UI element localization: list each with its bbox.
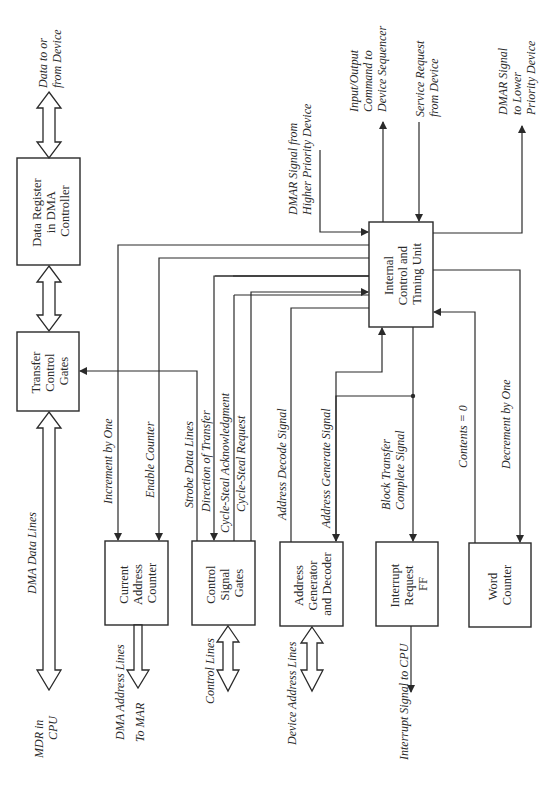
- label-contents-zero: Contents = 0: [456, 405, 470, 468]
- label-block-transfer-complete: Block Transfer Complete Signal: [379, 430, 407, 510]
- control-signal-gates-block: Control Signal Gates: [192, 541, 255, 625]
- data-register-block: Data Register in DMA Controller: [17, 158, 80, 265]
- label-enable-counter: Enable Counter: [143, 421, 157, 499]
- label-mdr-in-cpu: MDR in CPU: [32, 715, 60, 759]
- data-register-line-1: Data Register: [30, 178, 44, 247]
- label-dma-data-lines: DMA Data Lines: [25, 512, 39, 595]
- label-dmar-to-lower: DMAR Signal to Lower Priority Device: [496, 40, 538, 116]
- label-interrupt-signal-to-cpu: Interrupt Signal to CPU: [397, 642, 411, 761]
- label-to-mar: To MAR: [133, 702, 147, 742]
- cac-line-3: Counter: [145, 562, 159, 603]
- label-address-decode-signal: Address Decode Signal: [275, 408, 289, 521]
- csg-line-3: Gates: [232, 569, 246, 598]
- device-address-lines-bus-arrow: [301, 627, 323, 691]
- cac-line-2: Address: [131, 564, 145, 605]
- irf-line-2: Request: [402, 565, 416, 606]
- tcg-line-1: Transfer: [29, 351, 43, 394]
- word-counter-block: Word Counter: [469, 543, 531, 627]
- svg-text:Current Address Co: Current Address Counter: [117, 561, 159, 605]
- label-data-to-from-device: Data to or from Device: [36, 29, 64, 89]
- dma-data-lines-bus-arrow: [37, 412, 61, 690]
- label-cycle-steal-request: Cycle-Steal Request: [234, 415, 248, 512]
- label-cycle-steal-ack: Cycle-Steal Acknowledgment: [218, 392, 232, 533]
- interrupt-request-ff-block: Interrupt Request FF: [376, 542, 438, 626]
- csg-line-2: Signal: [218, 568, 232, 600]
- label-service-request: Service Request from Device: [413, 38, 441, 117]
- cac-line-1: Current: [117, 565, 131, 604]
- label-increment-by-one: Increment by One: [101, 418, 115, 505]
- label-io-command: Input/Output Command to Device Sequencer: [347, 25, 389, 113]
- agd-line-2: Generator: [306, 560, 320, 611]
- irf-line-3: FF: [416, 577, 430, 591]
- control-lines-bus-arrow: [217, 626, 239, 691]
- csg-line-1: Control: [204, 565, 218, 604]
- tcg-line-2: Control: [43, 353, 57, 392]
- dmar-to-lower-wire: [433, 126, 522, 233]
- internal-data-bus-arrow: [37, 266, 61, 331]
- label-control-lines: Control Lines: [203, 638, 217, 704]
- transfer-control-gates-block: Transfer Control Gates: [17, 332, 79, 411]
- tcg-line-3: Gates: [57, 357, 71, 386]
- ictu-line-1: Internal: [382, 256, 396, 295]
- junction-dot: [411, 394, 415, 398]
- label-dmar-from-higher: DMAR Signal from Higher Priority Device: [286, 103, 314, 216]
- label-address-generate-signal: Address Generate Signal: [319, 408, 333, 529]
- device-data-bus-arrow: [37, 92, 61, 158]
- dma-controller-diagram: Data Register in DMA Controller Transfer…: [0, 0, 549, 790]
- svg-text:Word Counter: Word Counter: [486, 564, 514, 605]
- ictu-line-2: Control and: [396, 245, 410, 305]
- irf-line-1: Interrupt: [388, 563, 402, 607]
- agd-line-3: and Decoder: [320, 551, 334, 615]
- label-strobe-data-lines: Strobe Data Lines: [182, 421, 196, 508]
- data-register-line-3: Controller: [58, 184, 72, 236]
- address-generate-signal-wire-up: [336, 328, 382, 541]
- ictu-line-3: Timing Unit: [410, 243, 424, 305]
- wc-line-2: Counter: [500, 564, 514, 605]
- agd-line-1: Address: [292, 565, 306, 606]
- internal-control-timing-block: Internal Control and Timing Unit: [369, 222, 433, 327]
- strobe-data-lines-wire: [80, 371, 197, 541]
- dmar-from-higher-wire: [320, 150, 368, 232]
- cycle-steal-request-wire: [251, 292, 368, 541]
- data-register-line-2: in DMA: [44, 191, 58, 233]
- current-address-counter-block: Current Address Counter: [105, 541, 168, 625]
- label-decrement-by-one: Decrement by One: [499, 379, 513, 470]
- address-generator-decoder-block: Address Generator and Decoder: [280, 542, 343, 626]
- label-direction-of-transfer: Direction of Transfer: [199, 410, 213, 513]
- label-device-address-lines: Device Address Lines: [285, 641, 299, 746]
- wc-line-1: Word: [486, 572, 500, 600]
- dma-address-lines-bus-arrow: [127, 625, 149, 688]
- label-dma-address-lines: DMA Address Lines: [113, 644, 127, 741]
